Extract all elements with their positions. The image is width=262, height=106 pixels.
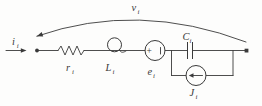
emf-source: + e i bbox=[145, 41, 165, 81]
resistor-zigzag-icon bbox=[58, 46, 84, 55]
port-voltage-label: v bbox=[132, 2, 137, 13]
resistor: r i bbox=[58, 46, 84, 76]
capacitor: C i bbox=[183, 31, 193, 59]
port-voltage-arc: v i bbox=[37, 2, 246, 42]
input-current-label: i bbox=[12, 36, 15, 47]
voltage-arc-curve bbox=[37, 20, 246, 42]
resistor-label-sub: i bbox=[72, 68, 74, 76]
circuit-diagram: i i r i L i + e i C i bbox=[0, 0, 262, 106]
input-current-label-sub: i bbox=[17, 42, 19, 50]
port-voltage-label-sub: i bbox=[138, 8, 140, 16]
inductor-label: L bbox=[105, 62, 112, 73]
emf-source-label: e bbox=[148, 66, 153, 77]
input-arrow-head-icon bbox=[21, 48, 27, 53]
current-source: J i bbox=[186, 66, 206, 102]
inductor-label-sub: i bbox=[113, 68, 115, 76]
emf-source-label-sub: i bbox=[153, 72, 155, 80]
emf-plus-sign: + bbox=[147, 46, 152, 56]
capacitor-label-sub: i bbox=[190, 37, 192, 45]
inductor: L i bbox=[105, 38, 127, 76]
right-node-dot bbox=[245, 49, 249, 53]
current-source-arrow-head-icon bbox=[189, 73, 194, 77]
circuit-svg: i i r i L i + e i C i bbox=[0, 0, 262, 106]
voltage-arc-arrow-head-icon bbox=[37, 32, 43, 36]
input-current-arrow: i i bbox=[6, 36, 27, 53]
current-source-label-sub: i bbox=[196, 93, 198, 101]
resistor-label: r bbox=[66, 62, 71, 73]
